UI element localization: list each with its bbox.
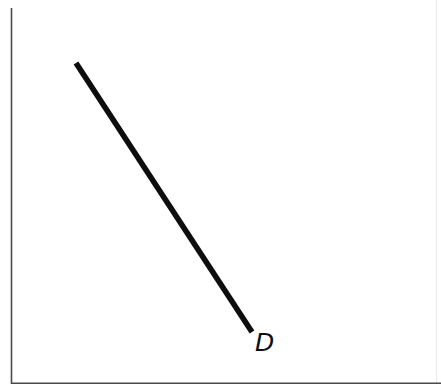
demand-curve-figure: D — [0, 0, 441, 391]
figure-canvas — [0, 0, 441, 391]
figure-background — [0, 0, 441, 391]
demand-curve-label: D — [255, 330, 274, 355]
